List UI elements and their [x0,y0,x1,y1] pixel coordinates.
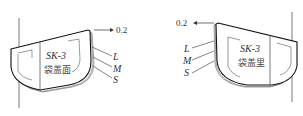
right-flap-name: 袋盖里 [238,57,265,68]
right-pocket-flap: SK-3 袋盖里 0.2 L M S [176,12,297,102]
left-size-l: L [112,51,119,62]
right-size-l: L [183,43,190,54]
arrow-left-icon [193,21,197,25]
left-flap-code: SK-3 [46,50,66,61]
right-flap-code: SK-3 [240,43,260,54]
left-offset-label: 0.2 [116,25,127,35]
left-size-m: M [112,63,122,74]
right-size-s: S [184,67,189,78]
arrow-right-icon [110,28,114,32]
left-size-s: S [113,74,118,85]
left-pocket-flap: SK-3 袋盖面 0.2 L M S [11,18,127,108]
right-size-m: M [182,55,192,66]
pocket-flap-diagram: SK-3 袋盖面 0.2 L M S SK-3 袋盖里 0.2 L M [0,0,303,116]
right-offset-label: 0.2 [176,18,187,28]
left-flap-name: 袋盖面 [44,64,71,75]
